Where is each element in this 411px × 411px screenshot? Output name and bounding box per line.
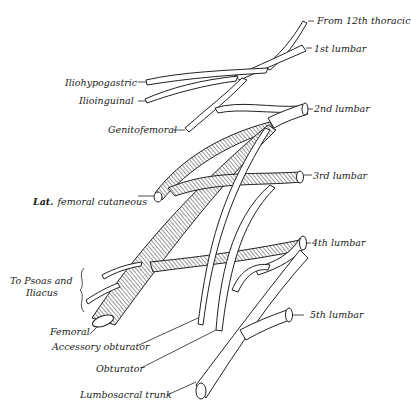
label-4th-lumbar: 4th lumbar	[312, 238, 365, 248]
label-from-12th-thoracic: From 12th thoracic	[317, 16, 410, 26]
label-to-psoas-line1: To Psoas and	[10, 276, 73, 286]
nerve-obturator-loop	[232, 264, 270, 292]
label-2nd-lumbar: 2nd lumbar	[314, 104, 370, 114]
label-3rd-lumbar: 3rd lumbar	[313, 171, 367, 181]
label-to-psoas-line2: Iliacus	[26, 288, 58, 298]
label-femoral: Femoral	[50, 327, 90, 337]
label-5th-lumbar: 5th lumbar	[310, 310, 363, 320]
label-lat-femoral-cutaneous: Lat. femoral cutaneous	[33, 191, 147, 209]
cut-end-lat-femoral	[154, 192, 162, 202]
brace-psoas	[80, 268, 84, 312]
cut-end-lumbosacral	[196, 383, 206, 399]
label-obturator: Obturator	[96, 364, 144, 374]
label-ilioinguinal: Ilioinguinal	[79, 96, 134, 106]
root-end-5th	[286, 308, 293, 322]
label-lumbosacral-trunk: Lumbosacral trunk	[80, 390, 172, 400]
label-accessory-obturator: Accessory obturator	[52, 342, 150, 352]
leader-femoral	[90, 326, 98, 334]
leader-obturator	[141, 330, 216, 368]
label-genitofemoral: Genitofemoral	[108, 125, 177, 135]
label-lat-femoral-cutaneous-prefix: Lat.	[33, 196, 54, 207]
root-end-4th	[300, 236, 307, 250]
label-lat-femoral-cutaneous-rest: femoral cutaneous	[58, 196, 148, 207]
root-end-3rd	[297, 171, 304, 183]
root-end-2nd	[302, 103, 308, 115]
label-1st-lumbar: 1st lumbar	[314, 44, 366, 54]
label-iliohypogastric: Iliohypogastric	[65, 78, 137, 88]
